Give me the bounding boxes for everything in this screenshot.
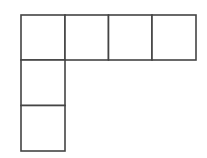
grid-cell-r0-c0	[21, 15, 65, 60]
grid-cell-r0-c2	[109, 15, 153, 60]
grid-cell-r1-c0	[21, 60, 65, 106]
l-shaped-square-grid	[0, 0, 207, 158]
grid-cell-r2-c0	[21, 106, 65, 152]
grid-cell-r0-c1	[65, 15, 109, 60]
diagram-canvas	[0, 0, 207, 158]
grid-cell-r0-c3	[152, 15, 196, 60]
